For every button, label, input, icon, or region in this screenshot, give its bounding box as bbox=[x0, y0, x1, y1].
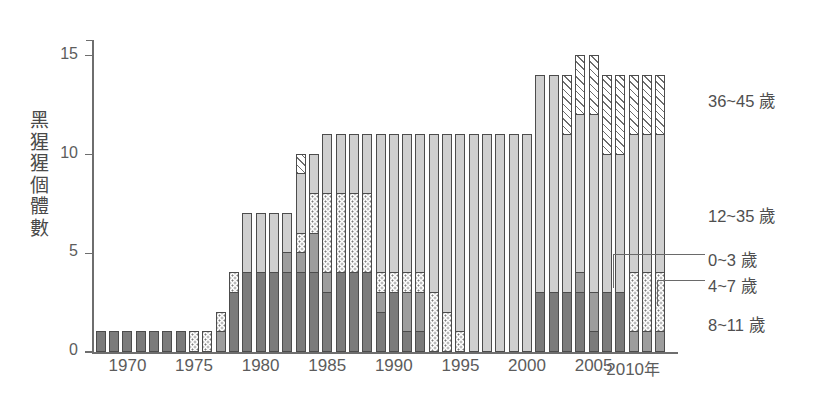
bar-segment-1979-12-35-歲 bbox=[242, 213, 252, 273]
bar-segment-1994-0-3-歲 bbox=[442, 312, 452, 352]
bar-1989[interactable] bbox=[376, 135, 386, 352]
bar-segment-1989-8-11-歲 bbox=[376, 312, 386, 352]
bar-segment-2003-36-45-歲 bbox=[562, 75, 572, 135]
bar-segment-1983-8-11-歲 bbox=[296, 272, 306, 352]
bar-2005[interactable] bbox=[589, 56, 599, 352]
bar-segment-2004-8-11-歲 bbox=[575, 292, 585, 352]
bar-segment-2004-12-35-歲 bbox=[575, 114, 585, 273]
bar-2000[interactable] bbox=[522, 135, 532, 352]
bar-1993[interactable] bbox=[429, 135, 439, 352]
bar-segment-1972-8-11-歲 bbox=[149, 331, 159, 352]
bar-1976[interactable] bbox=[202, 332, 212, 352]
bar-1985[interactable] bbox=[322, 135, 332, 352]
bar-segment-1982-8-11-歲 bbox=[282, 272, 292, 352]
bar-1968[interactable] bbox=[96, 332, 106, 352]
x-tick-label-1975: 1975 bbox=[166, 356, 222, 376]
bar-segment-1988-12-35-歲 bbox=[362, 134, 372, 194]
bar-2002[interactable] bbox=[549, 76, 559, 352]
bar-2009[interactable] bbox=[642, 76, 652, 352]
bar-1999[interactable] bbox=[509, 135, 519, 352]
leader-line-4-7-horizontal bbox=[657, 280, 705, 281]
bar-1972[interactable] bbox=[149, 332, 159, 352]
bar-segment-1984-0-3-歲 bbox=[309, 193, 319, 233]
bar-1984[interactable] bbox=[309, 155, 319, 352]
legend-label-36-45-歲: 36~45 歲 bbox=[708, 88, 776, 112]
bar-1996[interactable] bbox=[469, 135, 479, 352]
bar-1986[interactable] bbox=[336, 135, 346, 352]
bar-1991[interactable] bbox=[402, 135, 412, 352]
bar-1992[interactable] bbox=[415, 135, 425, 352]
bar-1970[interactable] bbox=[122, 332, 132, 352]
x-axis-line bbox=[92, 352, 678, 354]
bar-segment-2000-12-35-歲 bbox=[522, 134, 532, 352]
bar-segment-1993-0-3-歲 bbox=[429, 292, 439, 352]
bar-segment-1986-0-3-歲 bbox=[336, 193, 346, 273]
bar-1982[interactable] bbox=[282, 214, 292, 352]
bar-segment-1984-8-11-歲 bbox=[309, 272, 319, 352]
bar-segment-2005-36-45-歲 bbox=[589, 55, 599, 115]
bar-1973[interactable] bbox=[162, 332, 172, 352]
bar-segment-1988-0-3-歲 bbox=[362, 193, 372, 273]
y-axis-title-char: 黑 bbox=[22, 110, 56, 132]
bar-segment-1978-0-3-歲 bbox=[229, 272, 239, 293]
bar-1983[interactable] bbox=[296, 155, 306, 352]
bar-segment-1993-12-35-歲 bbox=[429, 134, 439, 293]
y-tick-10 bbox=[85, 154, 92, 155]
bar-segment-2006-12-35-歲 bbox=[602, 154, 612, 293]
bar-segment-1991-8-11-歲 bbox=[402, 331, 412, 352]
bar-segment-2001-8-11-歲 bbox=[535, 292, 545, 352]
bar-segment-2010-4-7-歲 bbox=[655, 331, 665, 352]
y-tick-15 bbox=[85, 55, 92, 56]
bar-segment-1973-8-11-歲 bbox=[162, 331, 172, 352]
bar-1977[interactable] bbox=[216, 313, 226, 352]
bar-2007[interactable] bbox=[615, 76, 625, 352]
bar-segment-2010-36-45-歲 bbox=[655, 75, 665, 135]
bar-2006[interactable] bbox=[602, 76, 612, 352]
bar-segment-1987-8-11-歲 bbox=[349, 272, 359, 352]
bar-segment-1985-4-7-歲 bbox=[322, 272, 332, 293]
bar-segment-1979-8-11-歲 bbox=[242, 272, 252, 352]
bar-segment-2006-8-11-歲 bbox=[602, 292, 612, 352]
bar-1988[interactable] bbox=[362, 135, 372, 352]
bar-2004[interactable] bbox=[575, 56, 585, 352]
bar-1998[interactable] bbox=[495, 135, 505, 352]
bar-segment-2002-12-35-歲 bbox=[549, 75, 559, 293]
bar-segment-2005-4-7-歲 bbox=[589, 292, 599, 332]
bar-segment-1981-12-35-歲 bbox=[269, 213, 279, 273]
bar-segment-1976-0-3-歲 bbox=[202, 331, 212, 352]
bar-2008[interactable] bbox=[629, 76, 639, 352]
y-axis-title-char: 個 bbox=[22, 175, 56, 197]
bar-1981[interactable] bbox=[269, 214, 279, 352]
bar-1990[interactable] bbox=[389, 135, 399, 352]
bar-segment-2008-36-45-歲 bbox=[629, 75, 639, 135]
bar-segment-1999-12-35-歲 bbox=[509, 134, 519, 352]
bar-1995[interactable] bbox=[455, 135, 465, 352]
bar-1979[interactable] bbox=[242, 214, 252, 352]
bar-1978[interactable] bbox=[229, 273, 239, 352]
bar-segment-2009-12-35-歲 bbox=[642, 134, 652, 273]
bar-segment-1980-12-35-歲 bbox=[256, 213, 266, 273]
bar-1980[interactable] bbox=[256, 214, 266, 352]
bar-2010[interactable] bbox=[655, 76, 665, 352]
x-tick-label-1970: 1970 bbox=[99, 356, 155, 376]
leader-line-0-3-vertical bbox=[613, 254, 614, 288]
bar-2001[interactable] bbox=[535, 76, 545, 352]
bar-segment-1990-0-3-歲 bbox=[389, 272, 399, 293]
bar-1971[interactable] bbox=[136, 332, 146, 352]
bar-1987[interactable] bbox=[349, 135, 359, 352]
bar-segment-1975-0-3-歲 bbox=[189, 331, 199, 352]
bar-segment-1981-8-11-歲 bbox=[269, 272, 279, 352]
bar-1997[interactable] bbox=[482, 135, 492, 352]
bar-2003[interactable] bbox=[562, 76, 572, 352]
bar-segment-1991-12-35-歲 bbox=[402, 134, 412, 273]
bar-segment-1991-0-3-歲 bbox=[402, 272, 412, 293]
bar-segment-1983-12-35-歲 bbox=[296, 173, 306, 233]
bar-segment-2004-36-45-歲 bbox=[575, 55, 585, 115]
bar-1994[interactable] bbox=[442, 135, 452, 352]
plot-area: 051015 197019751980198519901995200020052… bbox=[92, 40, 666, 352]
bar-1969[interactable] bbox=[109, 332, 119, 352]
bar-1975[interactable] bbox=[189, 332, 199, 352]
bar-segment-2009-36-45-歲 bbox=[642, 75, 652, 135]
bar-segment-2003-12-35-歲 bbox=[562, 134, 572, 293]
bar-1974[interactable] bbox=[176, 332, 186, 352]
